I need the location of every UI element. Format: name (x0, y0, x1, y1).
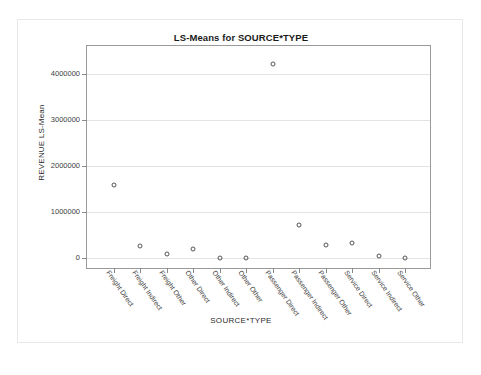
data-point (164, 252, 169, 257)
y-tick-mark (82, 258, 87, 259)
y-tick-mark (82, 74, 87, 75)
data-point (217, 255, 222, 260)
data-point (111, 183, 116, 188)
data-point (297, 222, 302, 227)
y-tick-mark (82, 212, 87, 213)
y-tick-label: 3000000 (51, 114, 80, 123)
plot-area (86, 45, 431, 269)
data-point (138, 243, 143, 248)
x-tick-label: Service Direct (344, 269, 375, 309)
x-axis-title: SOURCE*TYPE (18, 316, 464, 325)
data-point (376, 254, 381, 259)
y-tick-label: 0 (76, 253, 80, 262)
x-tick-label: Other Other (237, 269, 264, 303)
x-tick-label: Service Other (397, 269, 427, 308)
data-point (191, 246, 196, 251)
gridline-y (87, 212, 430, 213)
chart-title: LS-Means for SOURCE*TYPE (18, 32, 464, 43)
x-tick-label: Freight Other (158, 269, 187, 307)
x-tick-label: Other Indirect (211, 269, 241, 308)
chart-figure: LS-Means for SOURCE*TYPE REVENUE LS-Mean… (17, 19, 463, 343)
y-tick-mark (82, 120, 87, 121)
gridline-y (87, 166, 430, 167)
gridline-y (87, 120, 430, 121)
y-tick-label: 2000000 (51, 161, 80, 170)
y-tick-label: 1000000 (51, 207, 80, 216)
data-point (350, 241, 355, 246)
x-tick-label: Freight Direct (105, 269, 135, 307)
x-tick-label: Other Direct (184, 269, 211, 304)
data-point (403, 256, 408, 261)
data-point (244, 256, 249, 261)
y-tick-mark (82, 166, 87, 167)
data-point (270, 62, 275, 67)
data-point (323, 243, 328, 248)
gridline-y (87, 74, 430, 75)
y-axis-tick-labels: 01000000200000030000004000000 (18, 45, 80, 269)
y-tick-label: 4000000 (51, 68, 80, 77)
